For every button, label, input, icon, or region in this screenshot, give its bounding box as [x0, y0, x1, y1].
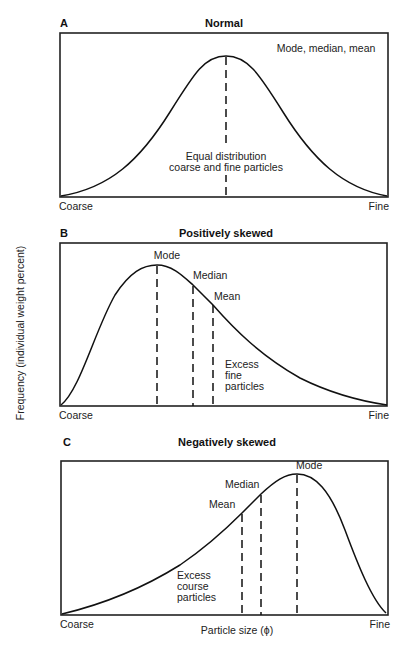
- plot-frame: [60, 243, 387, 406]
- coarse-label: Coarse: [59, 409, 93, 421]
- coarse-label: Coarse: [59, 200, 93, 212]
- panel-letter: C: [63, 436, 71, 448]
- note-line: coarse and fine particles: [169, 161, 283, 173]
- panel-title: Positively skewed: [179, 227, 273, 239]
- note-line: particles: [225, 380, 264, 392]
- mean-label: Mean: [214, 290, 240, 302]
- mode-median-mean-label: Mode, median, mean: [277, 42, 376, 54]
- panel-title: Negatively skewed: [178, 436, 276, 448]
- mode-label: Mode: [154, 249, 180, 261]
- coarse-label: Coarse: [60, 618, 94, 630]
- distribution-curve: [62, 474, 386, 614]
- grain-size-distribution-diagram: Frequency (individual weight percent) A …: [0, 0, 410, 652]
- y-axis-label: Frequency (individual weight percent): [14, 246, 26, 421]
- distribution-curve: [61, 265, 387, 405]
- mean-label: Mean: [209, 498, 235, 510]
- median-label: Median: [193, 269, 228, 281]
- fine-label: Fine: [370, 618, 391, 630]
- median-label: Median: [225, 478, 260, 490]
- panel-negatively-skewed: C Negatively skewed Mode Median Mean Exc…: [60, 436, 390, 636]
- mode-label: Mode: [296, 459, 322, 471]
- panel-normal: A Normal Mode, median, mean Equal distri…: [59, 17, 389, 212]
- panel-positively-skewed: B Positively skewed Mode Median Mean Exc…: [59, 227, 389, 421]
- fine-label: Fine: [369, 409, 390, 421]
- note-line: particles: [177, 591, 216, 603]
- fine-label: Fine: [369, 200, 390, 212]
- x-axis-label: Particle size (ϕ): [201, 624, 273, 636]
- panel-title: Normal: [205, 17, 243, 29]
- panel-letter: A: [60, 17, 68, 29]
- panel-letter: B: [60, 227, 68, 239]
